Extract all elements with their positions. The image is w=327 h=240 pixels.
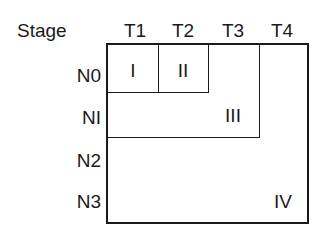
row-label-n2: N2 (77, 151, 101, 170)
region-label-iv: IV (274, 192, 292, 211)
column-label-t2: T2 (172, 21, 194, 40)
region-label-ii: II (178, 61, 189, 80)
divider-stage-ii-right (208, 43, 209, 92)
region-label-iii: III (225, 106, 241, 125)
row-label-n1: NI (82, 108, 101, 127)
divider-stage-iii-bottom (106, 137, 260, 138)
row-label-n3: N3 (77, 192, 101, 211)
divider-stage-i-ii (158, 43, 159, 92)
stage-header: Stage (17, 21, 67, 40)
column-label-t1: T1 (124, 21, 146, 40)
divider-stage-iii-right (259, 43, 260, 137)
row-label-n0: N0 (77, 66, 101, 85)
region-label-i: I (130, 61, 135, 80)
column-label-t4: T4 (271, 21, 293, 40)
divider-stage-i-ii-bottom (106, 92, 209, 93)
column-label-t3: T3 (222, 21, 244, 40)
